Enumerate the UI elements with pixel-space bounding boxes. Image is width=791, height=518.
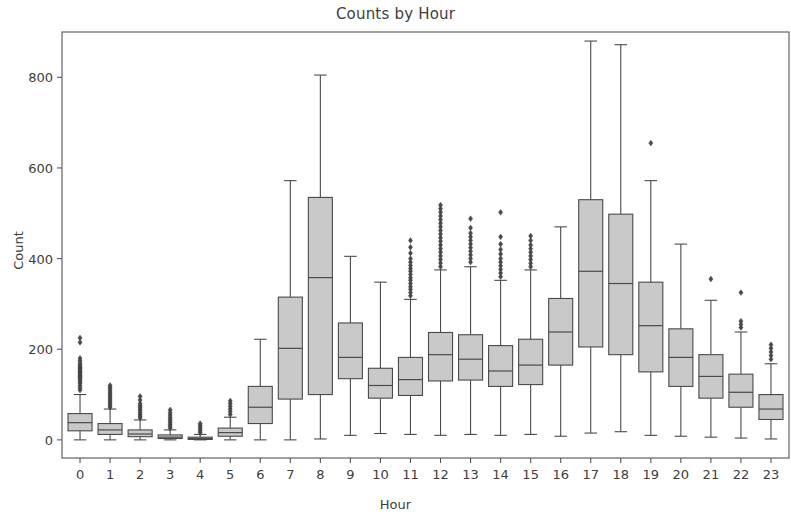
outlier-marker	[649, 140, 653, 146]
box-group	[368, 282, 392, 433]
box-group	[188, 421, 212, 440]
outlier-marker	[499, 234, 503, 240]
outlier-marker	[499, 241, 503, 247]
outlier-marker	[408, 244, 412, 250]
box-group	[308, 75, 332, 439]
x-tick-label: 23	[763, 467, 780, 482]
box-iqr	[639, 282, 663, 372]
box-group	[489, 209, 513, 435]
box-iqr	[579, 200, 603, 347]
x-tick-label: 8	[316, 467, 324, 482]
x-tick-label: 5	[226, 467, 234, 482]
box-iqr	[459, 335, 483, 380]
box-group	[98, 383, 122, 440]
box-group	[278, 181, 302, 440]
box-group	[759, 342, 783, 439]
x-tick-label: 4	[196, 467, 204, 482]
x-tick-label: 14	[492, 467, 509, 482]
box-group	[669, 244, 693, 436]
box-iqr	[759, 395, 783, 420]
outlier-marker	[499, 209, 503, 215]
box-group	[459, 216, 483, 435]
outlier-marker	[408, 250, 412, 256]
box-group	[248, 339, 272, 440]
x-tick-label: 13	[462, 467, 479, 482]
box-iqr	[308, 197, 332, 394]
x-tick-label: 17	[582, 467, 599, 482]
box-group	[729, 290, 753, 438]
box-group	[609, 45, 633, 432]
outlier-marker	[138, 393, 142, 399]
box-iqr	[128, 430, 152, 437]
box-group	[549, 227, 573, 436]
x-tick-label: 1	[106, 467, 114, 482]
x-tick-label: 16	[552, 467, 569, 482]
box-iqr	[248, 386, 272, 423]
box-group	[639, 140, 663, 435]
x-tick-label: 10	[372, 467, 389, 482]
box-iqr	[398, 357, 422, 395]
box-iqr	[609, 214, 633, 354]
outlier-marker	[529, 233, 533, 239]
boxplot-canvas: 0200400600800 01234567891011121314151617…	[0, 0, 791, 518]
x-tick-label: 22	[733, 467, 750, 482]
x-tick-label: 20	[673, 467, 690, 482]
outlier-marker	[499, 247, 503, 253]
box-group	[128, 393, 152, 439]
x-tick-label: 7	[286, 467, 294, 482]
figure: Counts by Hour Count Hour 0200400600800 …	[0, 0, 791, 518]
outlier-marker	[769, 342, 773, 348]
box-iqr	[729, 374, 753, 407]
x-tick-label: 21	[703, 467, 720, 482]
plot-frame	[62, 32, 789, 458]
x-tick-label: 3	[166, 467, 174, 482]
outlier-marker	[739, 290, 743, 296]
box-group	[699, 276, 723, 437]
outlier-marker	[468, 230, 472, 236]
box-group	[218, 398, 242, 440]
x-tick-label: 0	[76, 467, 84, 482]
box-series	[68, 41, 783, 440]
box-group	[68, 335, 92, 440]
x-tick-label: 15	[522, 467, 539, 482]
box-iqr	[429, 332, 453, 380]
x-tick-label: 12	[432, 467, 449, 482]
y-tick-label: 0	[45, 433, 53, 448]
box-group	[429, 202, 453, 435]
box-iqr	[489, 346, 513, 387]
outlier-marker	[78, 335, 82, 341]
outlier-marker	[408, 238, 412, 244]
outlier-marker	[709, 276, 713, 282]
x-axis-ticks: 01234567891011121314151617181920212223	[76, 458, 779, 482]
box-group	[519, 233, 543, 434]
outlier-marker	[408, 256, 412, 262]
y-tick-label: 400	[28, 252, 53, 267]
x-tick-label: 2	[136, 467, 144, 482]
y-tick-label: 800	[28, 70, 53, 85]
outlier-marker	[438, 202, 442, 208]
y-tick-label: 600	[28, 161, 53, 176]
box-iqr	[338, 323, 362, 379]
box-iqr	[98, 424, 122, 435]
y-tick-label: 200	[28, 342, 53, 357]
x-tick-label: 19	[643, 467, 660, 482]
box-group	[158, 407, 182, 440]
box-iqr	[368, 368, 392, 398]
axes-frame	[62, 32, 789, 458]
box-group	[338, 256, 362, 435]
y-axis-ticks: 0200400600800	[28, 70, 62, 448]
x-tick-label: 11	[402, 467, 419, 482]
outlier-marker	[468, 225, 472, 231]
box-group	[398, 238, 422, 435]
box-group	[579, 41, 603, 433]
x-tick-label: 9	[346, 467, 354, 482]
x-tick-label: 18	[612, 467, 629, 482]
outlier-marker	[468, 216, 472, 222]
x-tick-label: 6	[256, 467, 264, 482]
box-iqr	[519, 339, 543, 384]
